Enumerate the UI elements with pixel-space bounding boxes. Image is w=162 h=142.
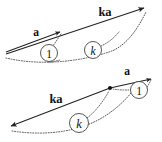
bottom-label-ka: ka (49, 92, 63, 106)
vector-scaling-figure: 1 k a ka k 1 a ka (0, 0, 162, 142)
bottom-junction-dot (108, 86, 112, 90)
top-label-ka: ka (98, 5, 112, 19)
top-label-a: a (33, 26, 39, 38)
bottom-marker-unit-label: 1 (136, 85, 142, 97)
bottom-marker-scale-label: k (76, 117, 82, 131)
top-marker-unit-label: 1 (46, 48, 52, 60)
top-marker-scale-label: k (90, 45, 96, 57)
bottom-label-a: a (124, 65, 130, 77)
